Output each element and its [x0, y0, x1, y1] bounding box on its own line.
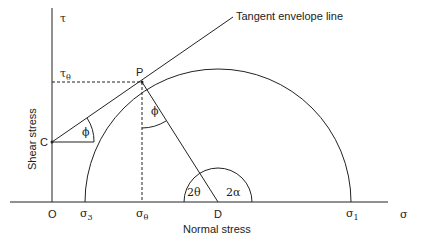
sigma-theta-label: σθ [136, 207, 149, 222]
radius-pd [142, 82, 218, 202]
point-p-marker [141, 81, 144, 84]
sigma3-label: σ3 [80, 207, 93, 222]
x-axis-label: Normal stress [183, 223, 251, 235]
point-c-label: C [40, 136, 48, 148]
phi-label-p: ϕ [151, 105, 159, 118]
phi-arc-p [142, 121, 166, 128]
origin-label: O [48, 208, 57, 220]
mohr-circle-diagram: τ σ τθ P C D O σ3 σθ σ1 ϕ ϕ 2θ 2α Tangen… [0, 0, 421, 241]
tau-theta-label: τθ [60, 67, 71, 82]
point-p-label: P [136, 66, 143, 78]
tangent-envelope-annotation: Tangent envelope line [236, 10, 343, 22]
sigma1-label: σ1 [346, 207, 359, 222]
tau-axis-symbol: τ [60, 12, 66, 25]
two-alpha-label: 2α [226, 186, 241, 199]
mohr-circle [85, 69, 351, 202]
phi-label-c: ϕ [82, 126, 90, 139]
y-axis-label: Shear stress [26, 108, 38, 170]
two-theta-label: 2θ [187, 186, 201, 199]
point-c-marker [51, 141, 54, 144]
point-d-label: D [214, 208, 222, 220]
sigma-axis-symbol: σ [400, 208, 408, 221]
